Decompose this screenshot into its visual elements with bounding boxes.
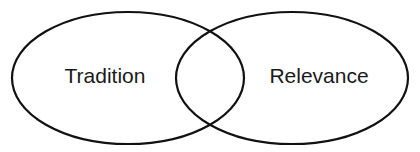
venn-diagram: Tradition Relevance bbox=[0, 0, 420, 152]
venn-diagram-canvas: Tradition Relevance bbox=[0, 0, 420, 152]
label-tradition: Tradition bbox=[65, 64, 146, 87]
label-relevance: Relevance bbox=[269, 64, 368, 87]
